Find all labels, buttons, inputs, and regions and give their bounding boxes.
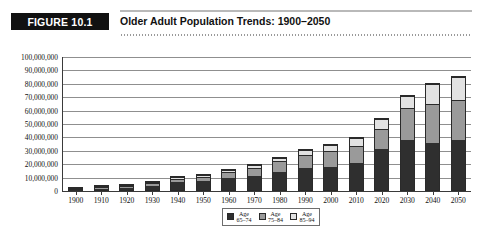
bar-segment-age-85-94: [426, 84, 439, 103]
bar-segment-age-75-84: [350, 146, 363, 163]
bar-group: 1980: [267, 57, 293, 191]
bar-group: 1990: [293, 57, 319, 191]
figure-number-badge: FIGURE 10.1: [11, 13, 109, 30]
header-rule-top: [120, 10, 472, 12]
bar-segment-age-65-74: [146, 186, 159, 190]
header-rule-dotted: [120, 34, 472, 36]
x-axis-tick: [433, 191, 434, 195]
y-axis-tick-label: 100,000,000: [21, 53, 58, 62]
bar-group: 2000: [318, 57, 344, 191]
bar-group: 2030: [395, 57, 421, 191]
bar-segment-age-65-74: [324, 167, 337, 190]
stacked-bar: [272, 157, 287, 191]
bar-group: 1970: [242, 57, 268, 191]
x-axis-tick-label: 1980: [272, 196, 287, 205]
bar-group: 1910: [89, 57, 115, 191]
bar-group: 1950: [191, 57, 217, 191]
bar-segment-age-65-74: [273, 172, 286, 190]
x-axis-tick: [331, 191, 332, 195]
x-axis-tick-label: 1950: [196, 196, 211, 205]
bar-segment-age-75-84: [324, 151, 337, 167]
bar-segment-age-65-74: [248, 176, 261, 190]
stacked-bar: [400, 95, 415, 191]
stacked-bar: [170, 176, 185, 191]
bar-segment-age-65-74: [299, 168, 312, 190]
bar-group: 1930: [140, 57, 166, 191]
x-axis-tick: [178, 191, 179, 195]
x-axis-tick: [229, 191, 230, 195]
bar-segment-age-65-74: [350, 163, 363, 190]
y-axis-tick-label: 50,000,000: [25, 120, 58, 129]
bar-segment-age-85-94: [350, 138, 363, 146]
x-axis-tick: [356, 191, 357, 195]
x-axis-tick-label: 2020: [374, 196, 389, 205]
x-axis-tick-label: 2040: [425, 196, 440, 205]
x-axis-tick: [458, 191, 459, 195]
bar-segment-age-75-84: [299, 155, 312, 168]
bar-segment-age-65-74: [375, 149, 388, 190]
y-axis-tick-label: 80,000,000: [25, 79, 58, 88]
legend-swatch-age-75-84: [259, 213, 266, 220]
y-axis-tick-label: 10,000,000: [25, 173, 58, 182]
x-axis-tick-label: 1930: [145, 196, 160, 205]
bar-group: 1960: [216, 57, 242, 191]
chart-legend: Age 65–74 Age 75–84 Age 85–94: [222, 208, 320, 226]
legend-swatch-age-85-94: [290, 213, 297, 220]
figure-header: FIGURE 10.1 Older Adult Population Trend…: [0, 4, 480, 34]
legend-item: Age 75–84: [259, 211, 284, 224]
bar-segment-age-85-94: [375, 119, 388, 128]
x-axis-tick-label: 1970: [247, 196, 262, 205]
x-axis-tick-label: 1940: [170, 196, 185, 205]
stacked-bar: [298, 149, 313, 191]
bar-segment-age-65-74: [401, 140, 414, 190]
stacked-bar: [221, 169, 236, 191]
x-axis-tick: [203, 191, 204, 195]
bar-group: 1940: [165, 57, 191, 191]
x-axis-tick-label: 1960: [221, 196, 236, 205]
stacked-bar: [349, 137, 364, 191]
x-axis-tick: [101, 191, 102, 195]
chart-container: 010,000,00020,000,00030,000,00040,000,00…: [0, 40, 480, 245]
bar-segment-age-75-84: [401, 108, 414, 140]
bar-segment-age-65-74: [452, 140, 465, 190]
x-axis-tick: [127, 191, 128, 195]
bar-segment-age-85-94: [452, 77, 465, 101]
bar-group: 2020: [369, 57, 395, 191]
bar-segment-age-75-84: [248, 168, 261, 176]
y-axis-tick-label: 0: [54, 187, 58, 196]
figure-title: Older Adult Population Trends: 1900–2050: [120, 13, 330, 30]
y-axis-tick-label: 90,000,000: [25, 66, 58, 75]
x-axis-tick-label: 1990: [298, 196, 313, 205]
bar-group: 2010: [344, 57, 370, 191]
bar-group: 1920: [114, 57, 140, 191]
bar-group: 2040: [420, 57, 446, 191]
bar-segment-age-65-74: [120, 188, 133, 190]
stacked-bar: [119, 184, 134, 192]
x-axis-tick: [280, 191, 281, 195]
x-axis-tick: [407, 191, 408, 195]
x-axis-tick: [76, 191, 77, 195]
x-axis-tick-label: 2000: [323, 196, 338, 205]
legend-swatch-age-65-74: [227, 213, 234, 220]
legend-label-age-85-94: Age 85–94: [300, 211, 315, 224]
stacked-bar: [247, 164, 262, 191]
x-axis-tick-label: 2050: [451, 196, 466, 205]
stacked-bar: [451, 76, 466, 192]
y-axis-tick-label: 60,000,000: [25, 106, 58, 115]
y-axis-tick-label: 70,000,000: [25, 93, 58, 102]
bar-group: 1900: [63, 57, 89, 191]
bar-segment-age-75-84: [375, 129, 388, 150]
x-axis-tick: [382, 191, 383, 195]
legend-item: Age 65–74: [227, 211, 252, 224]
plot-area: 010,000,00020,000,00030,000,00040,000,00…: [62, 57, 471, 192]
x-axis-tick: [152, 191, 153, 195]
bar-segment-age-75-84: [426, 104, 439, 144]
x-axis-tick-label: 2030: [400, 196, 415, 205]
x-axis-tick: [254, 191, 255, 195]
bar-segment-age-65-74: [95, 189, 108, 190]
x-axis-tick: [305, 191, 306, 195]
bar-segment-age-75-84: [273, 161, 286, 171]
x-axis-tick-label: 1910: [94, 196, 109, 205]
stacked-bar: [374, 118, 389, 191]
stacked-bar: [196, 174, 211, 191]
